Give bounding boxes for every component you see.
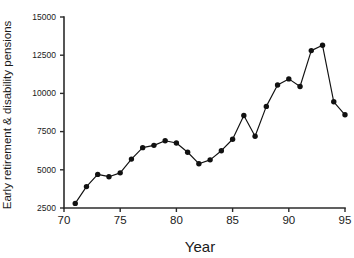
x-tick-label: 70 xyxy=(58,214,71,226)
data-point xyxy=(309,48,314,53)
y-axis-title: Early retirement & disability pensions xyxy=(1,20,13,209)
data-point xyxy=(275,82,280,87)
data-point xyxy=(241,113,246,118)
data-point xyxy=(252,133,257,138)
data-point xyxy=(174,140,179,145)
data-point xyxy=(196,161,201,166)
data-point xyxy=(264,104,269,109)
data-point xyxy=(286,76,291,81)
data-point xyxy=(297,84,302,89)
x-tick-label: 80 xyxy=(170,214,183,226)
data-point xyxy=(185,150,190,155)
data-point xyxy=(342,112,347,117)
x-axis-title: Year xyxy=(185,238,215,255)
x-tick-label: 95 xyxy=(339,214,352,226)
y-tick-label: 2500 xyxy=(37,203,56,213)
data-point xyxy=(320,43,325,48)
data-point xyxy=(331,99,336,104)
x-tick-label: 85 xyxy=(226,214,239,226)
data-point xyxy=(151,143,156,148)
data-point xyxy=(230,137,235,142)
line-chart: 250050007500100001250015000 707580859095… xyxy=(0,0,354,258)
data-point xyxy=(106,174,111,179)
data-point xyxy=(129,156,134,161)
chart-figure: 250050007500100001250015000 707580859095… xyxy=(0,0,354,258)
y-tick-label: 5000 xyxy=(37,165,56,175)
data-point xyxy=(95,172,100,177)
y-tick-label: 12500 xyxy=(32,50,56,60)
y-axis-tick-labels: 250050007500100001250015000 xyxy=(32,12,56,213)
x-tick-label: 75 xyxy=(114,214,127,226)
data-point xyxy=(73,201,78,206)
data-point xyxy=(140,145,145,150)
data-point xyxy=(84,184,89,189)
data-point xyxy=(162,138,167,143)
y-tick-label: 7500 xyxy=(37,126,56,136)
y-tick-label: 15000 xyxy=(32,12,56,22)
data-point xyxy=(219,148,224,153)
y-tick-label: 10000 xyxy=(32,88,56,98)
data-series-line xyxy=(75,45,345,203)
data-point xyxy=(118,170,123,175)
x-axis-tick-labels: 707580859095 xyxy=(58,214,352,226)
x-tick-label: 90 xyxy=(282,214,295,226)
data-point xyxy=(207,157,212,162)
